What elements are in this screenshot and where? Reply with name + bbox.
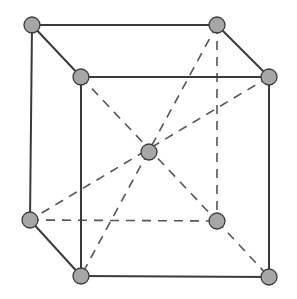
- atom-front-bottom-right: [261, 269, 277, 285]
- atom-back-bottom-right: [209, 213, 225, 229]
- atom-back-bottom-left: [22, 212, 38, 228]
- edge-back-top-right-front-top-right: [217, 25, 269, 77]
- atom-front-top-right: [261, 69, 277, 85]
- atom-front-top-left: [73, 69, 89, 85]
- atom-back-top-left: [24, 17, 40, 33]
- edge-front-bottom-left-front-bottom-right: [81, 276, 269, 277]
- atom-back-top-right: [209, 17, 225, 33]
- atom-front-bottom-left: [73, 268, 89, 284]
- edge-back-bottom-left-front-bottom-left: [30, 220, 81, 276]
- edge-back-top-left-back-bottom-left: [30, 25, 32, 220]
- dashed-edge-back-bottom-right-front-bottom-right: [217, 221, 269, 277]
- atom-center: [141, 144, 157, 160]
- dashed-edge-back-bottom-left-back-bottom-right: [30, 220, 217, 221]
- bcc-unit-cell-diagram: [0, 0, 297, 299]
- edge-back-top-left-front-top-left: [32, 25, 81, 77]
